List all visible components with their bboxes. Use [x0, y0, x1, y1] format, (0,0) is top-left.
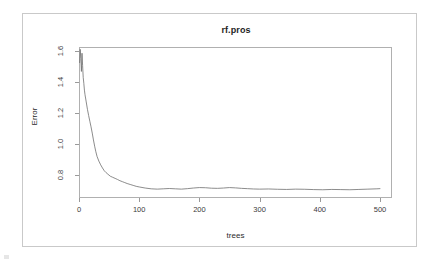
y-tick-label: 1.4 [57, 72, 65, 92]
x-tick-label: 300 [245, 206, 275, 214]
x-tick-label: 400 [305, 206, 335, 214]
y-tick-mark [75, 113, 79, 114]
x-tick-mark [79, 198, 80, 202]
data-series-layer [79, 47, 392, 198]
x-tick-mark [260, 198, 261, 202]
y-tick-mark [75, 82, 79, 83]
chart-figure: rf.pros 0.81.01.21.41.6 0100200300400500… [0, 0, 434, 266]
x-tick-label: 0 [64, 206, 94, 214]
y-axis-title: Error [30, 107, 39, 127]
x-tick-mark [199, 198, 200, 202]
oob-error-line [80, 49, 380, 189]
y-tick-mark [75, 144, 79, 145]
y-tick-mark [75, 51, 79, 52]
y-tick-label: 1.6 [57, 41, 65, 61]
y-tick-mark [75, 175, 79, 176]
x-tick-label: 200 [184, 206, 214, 214]
x-tick-mark [139, 198, 140, 202]
x-tick-label: 100 [124, 206, 154, 214]
y-tick-label: 0.8 [57, 165, 65, 185]
chart-title: rf.pros [79, 25, 393, 36]
x-tick-mark [380, 198, 381, 202]
x-tick-label: 500 [365, 206, 395, 214]
page-artifact [4, 255, 9, 259]
y-tick-label: 1.0 [57, 134, 65, 154]
x-axis-title: trees [79, 231, 392, 240]
y-tick-label: 1.2 [57, 103, 65, 123]
x-tick-mark [320, 198, 321, 202]
